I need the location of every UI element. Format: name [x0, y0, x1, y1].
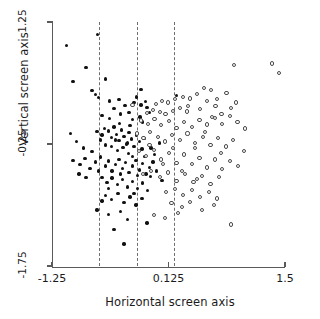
- data-point-filled: [103, 127, 106, 130]
- data-point-filled: [97, 96, 100, 99]
- data-point-filled: [121, 167, 124, 170]
- data-point-filled: [134, 159, 137, 162]
- data-point-filled: [90, 89, 93, 92]
- data-point-open: [224, 91, 228, 95]
- data-point-filled: [90, 150, 93, 153]
- data-point-open: [208, 182, 212, 186]
- data-point-filled: [140, 197, 143, 200]
- data-point-filled: [105, 181, 108, 184]
- data-point-filled: [119, 172, 122, 175]
- data-point-open: [163, 139, 167, 143]
- reference-line: [137, 22, 138, 266]
- x-axis-line: [52, 267, 285, 268]
- data-point-open: [149, 169, 153, 173]
- x-tick-label: 0.125: [139, 272, 199, 285]
- data-point-open: [163, 112, 167, 116]
- data-point-filled: [123, 104, 126, 107]
- data-point-filled: [139, 88, 142, 91]
- data-point-filled: [124, 161, 127, 164]
- data-point-open: [220, 122, 224, 126]
- x-tick-label: 1.5: [255, 272, 300, 285]
- data-point-open: [209, 88, 213, 92]
- data-point-open: [171, 109, 175, 113]
- data-point-filled: [71, 80, 74, 83]
- data-point-open: [197, 118, 201, 122]
- data-point-filled: [69, 132, 72, 135]
- data-point-filled: [114, 163, 117, 166]
- data-point-filled: [117, 158, 120, 161]
- data-point-filled: [138, 140, 141, 143]
- data-point-open: [178, 138, 182, 142]
- x-tick-label: -1.25: [22, 272, 82, 285]
- y-tick-mark: [47, 143, 52, 144]
- data-point-filled: [107, 129, 110, 132]
- data-point-open: [152, 148, 156, 152]
- data-point-filled: [144, 172, 147, 175]
- data-point-open: [166, 100, 170, 104]
- data-point-open: [173, 187, 177, 191]
- data-point-open: [193, 146, 197, 150]
- data-point-open: [190, 125, 194, 129]
- data-point-filled: [127, 171, 130, 174]
- data-point-open: [185, 131, 189, 135]
- data-point-open: [198, 107, 202, 111]
- y-axis-line: [52, 21, 53, 267]
- data-point-filled: [119, 112, 122, 115]
- data-point-filled: [119, 210, 122, 213]
- data-point-filled: [110, 176, 113, 179]
- data-point-filled: [107, 213, 110, 216]
- data-point-open: [205, 99, 209, 103]
- data-point-filled: [78, 163, 81, 166]
- data-point-filled: [136, 174, 139, 177]
- data-point-filled: [134, 203, 137, 206]
- data-point-filled: [95, 208, 98, 211]
- data-point-filled: [116, 149, 119, 152]
- data-point-open: [228, 159, 232, 163]
- data-point-filled: [110, 198, 113, 201]
- data-point-open: [190, 162, 194, 166]
- data-point-filled: [145, 221, 148, 224]
- data-point-filled: [104, 143, 107, 146]
- data-point-filled: [132, 192, 135, 195]
- data-point-open: [224, 144, 228, 148]
- data-point-filled: [84, 66, 87, 69]
- data-point-filled: [126, 141, 129, 144]
- data-point-filled: [126, 218, 129, 221]
- data-point-open: [152, 117, 156, 121]
- data-point-open: [229, 222, 233, 226]
- data-point-filled: [94, 160, 97, 163]
- x-axis-title: Horizontal screen axis: [52, 295, 288, 309]
- data-point-filled: [128, 124, 131, 127]
- data-point-open: [144, 154, 148, 158]
- data-point-open: [161, 162, 165, 166]
- data-point-filled: [144, 100, 147, 103]
- data-point-open: [174, 179, 178, 183]
- data-point-open: [169, 201, 173, 205]
- data-point-open: [203, 130, 207, 134]
- data-point-filled: [100, 199, 103, 202]
- data-point-filled: [121, 178, 124, 181]
- data-point-filled: [82, 146, 85, 149]
- data-point-open: [202, 86, 206, 90]
- data-point-filled: [114, 138, 117, 141]
- data-point-open: [183, 172, 187, 176]
- data-point-open: [180, 169, 184, 173]
- x-tick-mark: [284, 262, 285, 267]
- data-point-open: [181, 193, 185, 197]
- data-point-open: [141, 172, 145, 176]
- data-point-filled: [127, 111, 130, 114]
- data-point-filled: [107, 159, 110, 162]
- data-point-filled: [126, 185, 129, 188]
- data-point-open: [159, 157, 163, 161]
- data-point-open: [198, 195, 202, 199]
- data-point-filled: [136, 187, 139, 190]
- data-point-open: [243, 126, 247, 130]
- data-point-open: [167, 151, 171, 155]
- data-point-filled: [88, 167, 91, 170]
- data-point-open: [190, 188, 194, 192]
- data-point-filled: [127, 131, 130, 134]
- data-point-open: [173, 97, 177, 101]
- data-point-open: [151, 108, 155, 112]
- data-point-filled: [122, 242, 125, 245]
- data-point-filled: [145, 106, 148, 109]
